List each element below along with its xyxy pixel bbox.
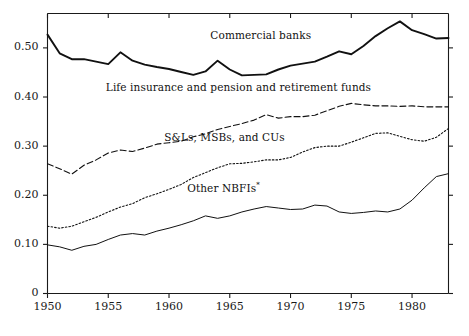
- footnote-marker-icon: *: [256, 181, 260, 189]
- series-label-other-nbfis: Other NBFIs*: [187, 181, 260, 194]
- x-tick-label: 1955: [78, 300, 138, 313]
- y-tick-label: 0.50: [0, 40, 39, 53]
- x-tick-label: 1965: [200, 300, 260, 313]
- y-tick-label: 0.40: [0, 90, 39, 103]
- chart-figure: 00.100.200.300.400.50 195019551960196519…: [0, 0, 469, 336]
- x-tick-label: 1980: [382, 300, 442, 313]
- series-label-snls: S&Ls, MSBs, and CUs: [164, 131, 285, 143]
- series-label-commercial-banks: Commercial banks: [210, 29, 311, 41]
- x-tick-label: 1960: [139, 300, 199, 313]
- y-tick-label: 0.30: [0, 139, 39, 152]
- x-tick-label: 1970: [261, 300, 321, 313]
- line-chart-plot: [0, 0, 469, 336]
- x-tick-label: 1975: [321, 300, 381, 313]
- series-line-2: [48, 128, 449, 228]
- series-label-other-nbfis-text: Other NBFIs: [187, 182, 256, 194]
- y-tick-label: 0: [0, 286, 39, 299]
- x-tick-label: 1950: [18, 300, 78, 313]
- y-tick-label: 0.20: [0, 188, 39, 201]
- series-label-life-insurance: Life insurance and pension and retiremen…: [106, 81, 371, 93]
- y-tick-label: 0.10: [0, 237, 39, 250]
